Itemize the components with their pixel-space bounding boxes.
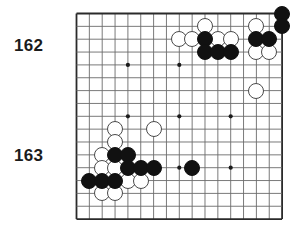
star-point <box>229 166 233 170</box>
star-point <box>126 114 130 118</box>
star-point <box>177 114 181 118</box>
black-stone[interactable] <box>274 18 290 34</box>
go-diagram-figure: 162163 <box>0 0 293 249</box>
star-point <box>126 63 130 67</box>
white-stone[interactable] <box>248 83 264 99</box>
star-point <box>177 166 181 170</box>
black-stone[interactable] <box>223 44 239 60</box>
black-stone[interactable] <box>146 160 162 176</box>
star-point <box>229 114 233 118</box>
move-number-label: 162 <box>14 36 43 56</box>
white-stone[interactable] <box>146 121 162 137</box>
move-number-label: 163 <box>14 146 43 166</box>
black-stone[interactable] <box>107 173 123 189</box>
star-point <box>177 63 181 67</box>
go-board[interactable] <box>76 13 283 220</box>
black-stone[interactable] <box>184 160 200 176</box>
